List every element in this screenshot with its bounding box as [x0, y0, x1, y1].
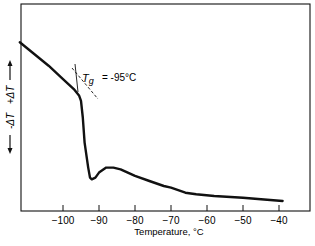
x-tick-label: −70 [163, 215, 180, 226]
dta-chart: −100−90−80−70−60−50−40 Temperature, °C -… [0, 0, 315, 246]
x-tick-label: −50 [235, 215, 252, 226]
x-tick-label: −100 [52, 215, 75, 226]
arrow-down-icon [8, 148, 13, 154]
x-tick-label: −90 [91, 215, 108, 226]
plot-frame [21, 4, 310, 211]
x-tick-label: −40 [271, 215, 288, 226]
tg-symbol: Tg [82, 72, 94, 86]
x-axis-tick-labels: −100−90−80−70−60−50−40 [52, 215, 288, 226]
tg-marker-line [75, 64, 78, 92]
dta-curve [20, 42, 283, 201]
y-label-negative: -ΔT [5, 112, 16, 129]
y-axis-label: -ΔT +ΔT [5, 60, 16, 154]
y-label-positive: +ΔT [5, 85, 16, 105]
x-axis-ticks [63, 205, 279, 211]
tg-value: = -95°C [102, 72, 136, 83]
x-tick-label: −60 [199, 215, 216, 226]
x-tick-label: −80 [127, 215, 144, 226]
x-axis-title: Temperature, °C [134, 226, 203, 237]
arrow-up-icon [8, 60, 13, 66]
